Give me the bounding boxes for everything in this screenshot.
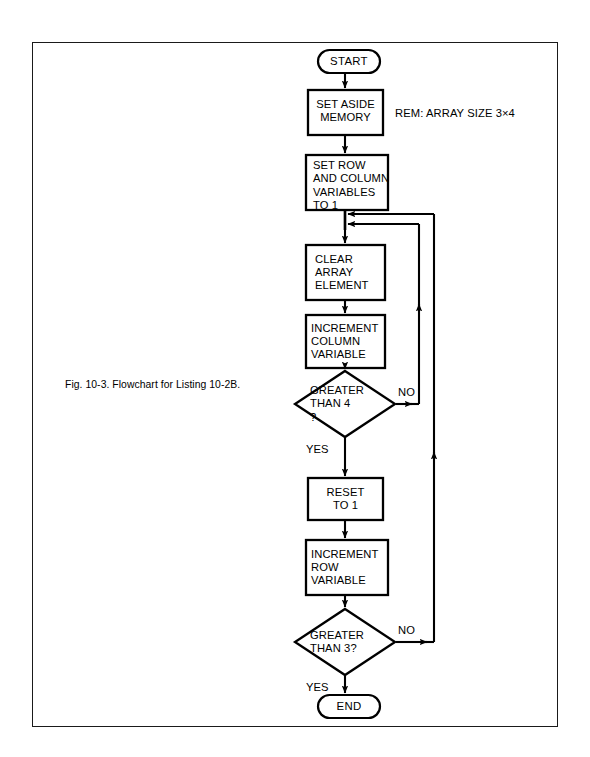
node-setrowcol-shape — [306, 155, 388, 210]
branch-label-gt4-yes: YES — [306, 443, 329, 455]
figure-caption: Fig. 10-3. Flowchart for Listing 10-2B. — [65, 379, 240, 390]
node-inccol-shape — [306, 315, 385, 368]
node-gt3-shape — [295, 609, 395, 675]
node-setaside-shape — [308, 90, 383, 135]
node-incrow-shape — [306, 540, 388, 595]
node-clear-shape — [306, 245, 385, 300]
node-reset-shape — [308, 478, 383, 520]
figure-page: START SET ASIDE MEMORY SET ROW AND COLUM… — [0, 0, 590, 757]
branch-label-gt4-no: NO — [398, 386, 415, 398]
node-start-shape — [318, 50, 380, 73]
node-gt4-shape — [295, 371, 395, 437]
rem-annotation: REM: ARRAY SIZE 3×4 — [395, 107, 515, 119]
branch-label-gt3-no: NO — [398, 624, 415, 636]
branch-label-gt3-yes: YES — [306, 681, 329, 693]
node-end-shape — [318, 695, 380, 718]
